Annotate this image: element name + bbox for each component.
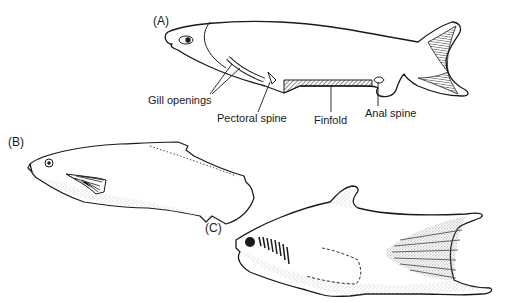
annotation-gill-openings: Gill openings xyxy=(148,95,212,106)
panel-label-c: (C) xyxy=(205,222,222,234)
annotation-anal-spine: Anal spine xyxy=(365,108,416,119)
fish-drawings xyxy=(0,0,520,303)
fish-b-drawing xyxy=(28,142,254,224)
panel-label-a: (A) xyxy=(153,15,169,27)
fish-c-drawing xyxy=(236,186,492,297)
fish-diagram-figure: (A) (B) (C) Gill openings Pectoral spine… xyxy=(0,0,520,303)
annotation-finfold: Finfold xyxy=(314,115,347,126)
panel-label-b: (B) xyxy=(8,136,24,148)
annotation-pectoral-spine: Pectoral spine xyxy=(217,113,287,124)
